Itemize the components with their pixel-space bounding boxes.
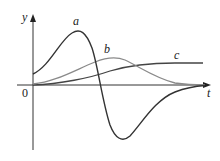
y-axis-label: y: [21, 10, 28, 24]
curve-a-label: a: [73, 14, 79, 28]
origin-label: 0: [22, 86, 28, 100]
graph-canvas: y t 0 a b c: [0, 0, 220, 161]
curve-b-label: b: [104, 42, 110, 56]
curve-c: [33, 63, 203, 85]
y-axis-arrow-icon: [30, 14, 36, 22]
t-axis-label: t: [207, 86, 211, 100]
graph-figure: y t 0 a b c: [0, 0, 220, 161]
curve-c-label: c: [174, 48, 180, 62]
